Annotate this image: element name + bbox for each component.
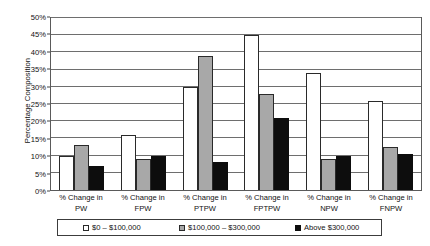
bar[interactable] (151, 156, 166, 190)
bar[interactable] (198, 56, 213, 190)
bar[interactable] (183, 87, 198, 190)
bar-group (368, 18, 413, 190)
y-tick-label: 50% (31, 13, 46, 22)
bar[interactable] (136, 159, 151, 190)
bar[interactable] (336, 156, 351, 190)
x-tick-label: % Change inPW (50, 193, 112, 214)
legend-swatch-icon (179, 225, 185, 231)
x-tick-label: % Change inPTPW (174, 193, 236, 214)
y-tick-label: 0% (35, 187, 46, 196)
x-tick-label-line2: PW (50, 204, 112, 215)
bar[interactable] (244, 35, 259, 190)
y-tick-label: 5% (35, 169, 46, 178)
y-tick-label: 30% (31, 82, 46, 91)
x-tick-label: % Change inNPW (298, 193, 360, 214)
x-tick-label-line1: % Change in (59, 193, 102, 202)
x-tick-label-line2: FPW (112, 204, 174, 215)
bar[interactable] (213, 162, 228, 190)
x-axis-tick-labels: % Change inPW% Change inFPW% Change inPT… (50, 193, 422, 214)
x-tick-label-line2: NPW (298, 204, 360, 215)
plot-area (50, 17, 422, 191)
y-axis-tick-labels: 0%5%10%15%20%25%30%35%40%45%50% (12, 14, 46, 191)
y-tick-label: 40% (31, 47, 46, 56)
x-tick-label: % Change inFPW (112, 193, 174, 214)
legend-item[interactable]: $100,000 – $300,000 (166, 223, 274, 232)
x-tick-label-line2: PTPW (174, 204, 236, 215)
y-tick-label: 35% (31, 65, 46, 74)
x-tick-label: % Change inFPTPW (236, 193, 298, 214)
x-tick-label-line1: % Change in (245, 193, 288, 202)
bars-layer (51, 18, 421, 190)
bar-group (244, 18, 289, 190)
y-tick-label: 45% (31, 30, 46, 39)
legend-item[interactable]: Above $300,000 (273, 223, 381, 232)
x-tick-label-line1: % Change in (369, 193, 412, 202)
bar-chart: Percentage Composition 0%5%10%15%20%25%3… (0, 0, 430, 246)
x-tick-label-line1: % Change in (121, 193, 164, 202)
x-tick-label-line2: FPTPW (236, 204, 298, 215)
legend-item-label: Above $300,000 (304, 223, 359, 232)
x-tick-label: % Change inFNPW (360, 193, 422, 214)
bar[interactable] (321, 159, 336, 190)
bar[interactable] (383, 147, 398, 190)
y-tick-label: 15% (31, 134, 46, 143)
bar-group (306, 18, 351, 190)
legend-item[interactable]: $0 – $100,000 (58, 223, 166, 232)
y-tick-label: 10% (31, 152, 46, 161)
bar-group (59, 18, 104, 190)
bar[interactable] (74, 145, 89, 190)
bar[interactable] (274, 118, 289, 190)
bar[interactable] (398, 154, 413, 190)
bar[interactable] (259, 94, 274, 190)
bar-group (183, 18, 228, 190)
x-tick-label-line1: % Change in (307, 193, 350, 202)
x-tick-label-line2: FNPW (360, 204, 422, 215)
bar[interactable] (306, 73, 321, 190)
y-tick-label: 20% (31, 117, 46, 126)
bar[interactable] (59, 156, 74, 190)
legend-swatch-icon (295, 225, 301, 231)
legend-swatch-icon (83, 225, 89, 231)
chart-legend: $0 – $100,000$100,000 – $300,000Above $3… (57, 219, 382, 236)
bar-group (121, 18, 166, 190)
legend-item-label: $100,000 – $300,000 (188, 223, 260, 232)
legend-item-label: $0 – $100,000 (92, 223, 141, 232)
x-tick-label-line1: % Change in (183, 193, 226, 202)
bar[interactable] (121, 135, 136, 190)
bar[interactable] (89, 166, 104, 190)
y-tick-label: 25% (31, 100, 46, 109)
bar[interactable] (368, 101, 383, 190)
